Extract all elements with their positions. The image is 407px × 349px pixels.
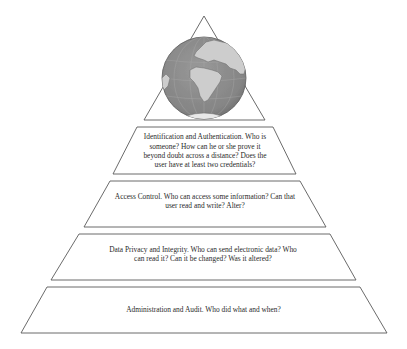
tier-administration-label: Administration and Audit. Who did what a… — [126, 305, 281, 314]
tier-data-privacy-label: Data Privacy and Integrity. Who can send… — [108, 245, 298, 264]
tier-identification-text: Identification and Authentication. Who i… — [140, 130, 270, 172]
tier-access-control-label: Access Control. Who can access some info… — [112, 192, 298, 211]
tier-administration-text: Administration and Audit. Who did what a… — [60, 290, 347, 330]
tier-identification-label: Identification and Authentication. Who i… — [140, 132, 270, 170]
tier-data-privacy-text: Data Privacy and Integrity. Who can send… — [108, 237, 298, 271]
tier-access-control-text: Access Control. Who can access some info… — [112, 183, 298, 219]
